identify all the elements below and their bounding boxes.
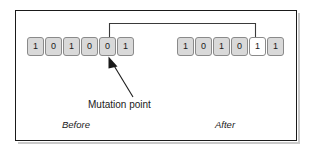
before-bit-string: 1 0 1 0 0 1: [27, 37, 134, 56]
bit-cell: 1: [27, 37, 44, 56]
bit-cell: 1: [177, 37, 194, 56]
bit-cell: 1: [117, 37, 134, 56]
bit-cell: 0: [81, 37, 98, 56]
diagram-frame: [15, 10, 297, 141]
after-caption: After: [215, 119, 235, 130]
bit-cell: 1: [267, 37, 284, 56]
bit-cell: 1: [63, 37, 80, 56]
bit-cell: 1: [213, 37, 230, 56]
bit-cell-mutated: 1: [249, 37, 266, 56]
after-bit-string: 1 0 1 0 1 1: [177, 37, 284, 56]
bit-cell: 0: [195, 37, 212, 56]
mutation-point-label: Mutation point: [88, 99, 151, 110]
bit-cell: 0: [45, 37, 62, 56]
before-caption: Before: [62, 119, 90, 130]
mutation-diagram: 1 0 1 0 0 1 1 0 1 0 1 1 Mutation point B…: [0, 0, 311, 151]
bit-cell-mutation-point: 0: [99, 37, 116, 56]
bit-cell: 0: [231, 37, 248, 56]
